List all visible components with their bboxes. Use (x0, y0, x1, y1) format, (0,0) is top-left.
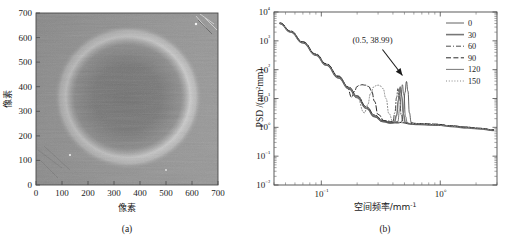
panel-b: 10⁻¹10⁰ 10⁻²10⁻¹10⁰10¹10²10³10⁴ (0.5, 38… (254, 0, 509, 245)
panel-b-y-axis: 10⁻²10⁻¹10⁰10¹10²10³10⁴ (256, 6, 497, 190)
panel-b-xlabel: 空间频率/mm-1 (354, 201, 417, 212)
panel-a-ytick-200: 200 (19, 131, 33, 141)
panel-a-caption: (a) (122, 224, 133, 235)
xtick-label-1: 10⁰ (435, 188, 447, 199)
panel-a-ytick-100: 100 (19, 155, 33, 165)
panel-a-ytick-600: 600 (19, 33, 33, 43)
panel-a-ylabel: 像素 (2, 90, 13, 108)
panel-a-svg: 0 100 200 300 400 500 600 700 0 10 (0, 0, 254, 245)
panel-a: 0 100 200 300 400 500 600 700 0 10 (0, 0, 254, 245)
panel-a-xtick-700: 700 (211, 188, 225, 198)
panel-b-xlabel-text: 空间频率/mm-1 (354, 201, 417, 212)
panel-a-ytick-0: 0 (28, 180, 33, 190)
legend-label-120: 120 (468, 65, 480, 74)
xtick-label-0: 10⁻¹ (314, 188, 328, 199)
panel-a-ytick-700: 700 (19, 8, 33, 18)
legend-label-150: 150 (468, 77, 480, 86)
ytick-label-6: 10⁴ (259, 6, 270, 17)
panel-a-ytick-300: 300 (19, 106, 33, 116)
ytick-label-0: 10⁻² (256, 179, 270, 190)
panel-a-xtick-300: 300 (107, 188, 121, 198)
legend: 0306090120150 (446, 19, 480, 86)
panel-b-ylabel-text: PSD /(nm2mm) (254, 69, 266, 128)
panel-b-svg: 10⁻¹10⁰ 10⁻²10⁻¹10⁰10¹10²10³10⁴ (0.5, 38… (254, 0, 509, 245)
legend-label-90: 90 (468, 54, 476, 63)
panel-a-xtick-100: 100 (55, 188, 69, 198)
surface-map-image (36, 13, 218, 185)
panel-b-caption: (b) (379, 224, 390, 235)
figure-container: 0 100 200 300 400 500 600 700 0 10 (0, 0, 509, 245)
peak-annotation: (0.5, 38.99) (352, 35, 402, 75)
panel-b-ylabel: PSD /(nm2mm) (254, 69, 266, 128)
panel-a-ytick-500: 500 (19, 57, 33, 67)
panel-a-ytick-400: 400 (19, 82, 33, 92)
panel-a-xtick-0: 0 (34, 188, 39, 198)
annotation-arrow-head (396, 68, 403, 75)
panel-a-xtick-600: 600 (185, 188, 199, 198)
panel-a-xtick-200: 200 (81, 188, 95, 198)
ytick-label-1: 10⁻¹ (256, 150, 270, 161)
legend-label-0: 0 (468, 19, 472, 28)
legend-label-30: 30 (468, 31, 476, 40)
panel-a-xlabel: 像素 (118, 202, 136, 213)
panel-a-xtick-400: 400 (133, 188, 147, 198)
panel-a-xtick-500: 500 (159, 188, 173, 198)
legend-label-60: 60 (468, 42, 476, 51)
ytick-label-5: 10³ (259, 34, 270, 45)
annotation-label: (0.5, 38.99) (352, 35, 392, 45)
